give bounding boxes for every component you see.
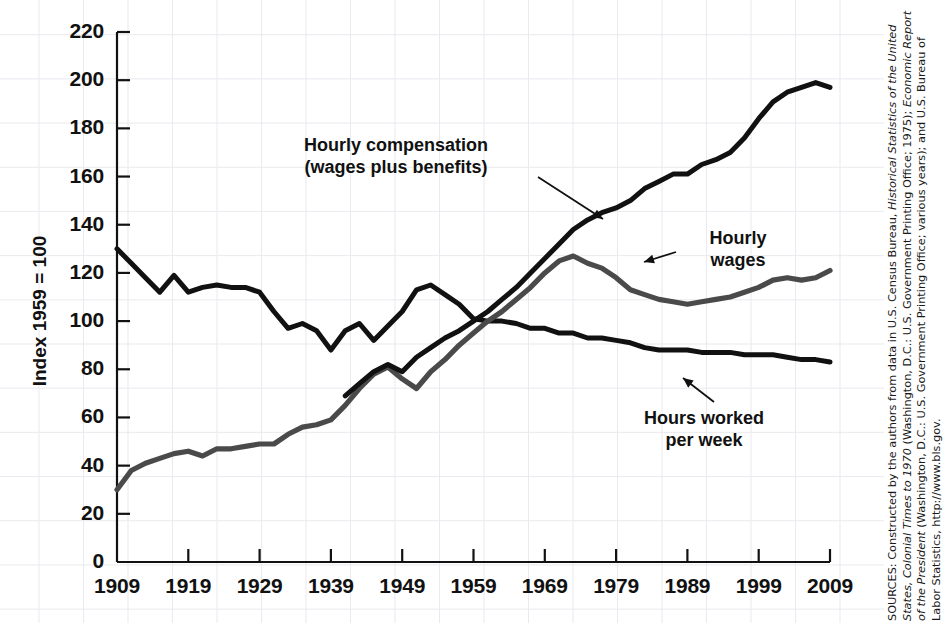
arrow-hourly-wages: [644, 252, 676, 263]
y-tick-label-0: 0: [42, 549, 104, 573]
y-tick-label-40: 40: [42, 453, 104, 477]
y-tick-label-220: 220: [42, 19, 104, 43]
annotation-hourly-wages: Hourly wages: [678, 228, 798, 272]
y-tick-label-160: 160: [42, 164, 104, 188]
annotation-hours-worked: Hours worked per week: [606, 408, 802, 452]
chart-plot-area: [0, 0, 884, 623]
x-tick-label-2009: 2009: [787, 574, 873, 598]
y-tick-label-180: 180: [42, 115, 104, 139]
line-chart-svg: [0, 0, 884, 623]
arrow-hourly-compensation-shaft: [538, 177, 603, 219]
y-tick-label-120: 120: [42, 260, 104, 284]
y-tick-label-140: 140: [42, 212, 104, 236]
series-line-hourly-wages: [117, 256, 830, 490]
arrow-hourly-compensation: [538, 177, 603, 219]
y-tick-label-80: 80: [42, 356, 104, 380]
arrow-hours-worked-head: [683, 378, 694, 388]
arrow-hours-worked: [683, 378, 714, 402]
arrow-hourly-wages-head: [644, 255, 655, 264]
y-tick-label-200: 200: [42, 67, 104, 91]
annotation-hourly-compensation: Hourly compensation (wages plus benefits…: [246, 135, 546, 179]
y-tick-label-20: 20: [42, 501, 104, 525]
source-mid-1: (Washington, D.C.: U.S. Government Print…: [901, 107, 914, 448]
chart-page: Index 1959 = 100 02040608010012014016018…: [0, 0, 943, 623]
source-prefix: SOURCES: Constructed by the authors from…: [886, 210, 899, 621]
y-tick-label-100: 100: [42, 308, 104, 332]
source-note: SOURCES: Constructed by the authors from…: [884, 0, 943, 623]
y-tick-label-60: 60: [42, 404, 104, 428]
